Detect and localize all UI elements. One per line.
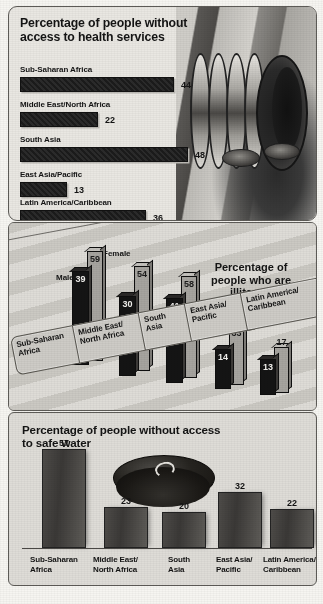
panel-illiteracy: Percentage of people who are illiterate … — [8, 222, 317, 411]
bar-value-water-1: 23 — [121, 496, 131, 508]
legend-female: Female — [103, 249, 131, 258]
drum-face — [272, 67, 302, 151]
bar-label-health-2: South Asia — [20, 135, 205, 145]
bar-group-health-2: South Asia 48 — [20, 135, 205, 162]
photo-blob-1 — [222, 149, 260, 167]
bar-value-water-4: 22 — [287, 498, 297, 510]
page-title-health: Percentage of people without access to h… — [20, 17, 200, 44]
bar-water-3: 32 — [218, 492, 262, 548]
category-plate-line-2b: Asia — [145, 321, 163, 333]
bar-water-0: 57 — [42, 449, 86, 548]
panel-safe-water: Percentage of people without access to s… — [8, 412, 317, 586]
bar-value-illit-m-1: 30 — [122, 297, 132, 309]
bar-health-2 — [20, 147, 188, 162]
bar-label-water-2-line1: South — [168, 555, 190, 564]
water-category-labels: Sub-Saharan Africa Middle East/ North Af… — [17, 553, 317, 581]
coil-illustration — [186, 53, 314, 173]
bar-water-1: 23 — [104, 507, 148, 548]
bar-group-health-3: East Asia/Pacific 13 — [20, 170, 84, 197]
bar-label-health-3: East Asia/Pacific — [20, 170, 84, 180]
bar-value-health-2: 48 — [195, 150, 205, 160]
bar-value-health-4: 36 — [153, 213, 163, 222]
bar-health-3 — [20, 182, 67, 197]
bar-label-water-4-line1: Latin America/ — [263, 555, 316, 564]
bar3d-front: 13 — [260, 359, 276, 395]
bar-water-2: 20 — [162, 512, 206, 548]
bar-water-4: 22 — [270, 509, 314, 548]
bar-label-water-3-line2: Pacific — [216, 565, 241, 574]
bar-value-health-0: 44 — [181, 80, 191, 90]
water-axis-line — [22, 548, 312, 549]
water-bar-plot: 57 23 20 32 22 — [22, 451, 306, 548]
bar-value-water-0: 57 — [59, 438, 69, 450]
bar-label-water-3-line1: East Asia/ — [216, 555, 252, 564]
bar-group-health-1: Middle East/North Africa 22 — [20, 100, 115, 127]
bar-label-water-3: East Asia/ Pacific — [216, 555, 252, 574]
bar-label-health-0: Sub-Saharan Africa — [20, 65, 191, 75]
bar-health-0 — [20, 77, 174, 92]
panel-health-services: Percentage of people without access to h… — [8, 6, 317, 221]
category-plate-line-0a: Sub-Saharan — [16, 331, 65, 349]
bar-group-health-0: Sub-Saharan Africa 44 — [20, 65, 191, 92]
bar-label-water-0-line1: Sub-Saharan — [30, 555, 78, 564]
bar-value-illit-f-0: 59 — [90, 252, 100, 264]
bar-value-health-1: 22 — [105, 115, 115, 125]
bar-label-water-2: South Asia — [168, 555, 190, 574]
bar-group-health-4: Latin America/Caribbean 36 — [20, 198, 163, 221]
page-title-water: Percentage of people without access to s… — [22, 423, 227, 449]
bar-value-health-3: 13 — [74, 185, 84, 195]
bar-label-water-4-line2: Caribbean — [263, 565, 301, 574]
bar-value-illit-f-2: 58 — [184, 277, 194, 289]
bar-label-health-1: Middle East/North Africa — [20, 100, 115, 110]
bar-label-health-4: Latin America/Caribbean — [20, 198, 163, 208]
bar-label-water-1-line1: Middle East/ — [93, 555, 138, 564]
bar-value-illit-f-1: 54 — [137, 267, 147, 279]
bar-health-1 — [20, 112, 98, 127]
bar-value-water-3: 32 — [235, 481, 245, 493]
bar3d-male-4: 13 — [260, 359, 274, 393]
bar-label-water-1-line2: North Africa — [93, 565, 137, 574]
bar-value-water-2: 20 — [179, 501, 189, 513]
bar-health-4 — [20, 210, 146, 221]
bar-label-water-4: Latin America/ Caribbean — [263, 555, 316, 574]
photo-blob-2 — [264, 143, 300, 160]
bar-value-illit-m-0: 39 — [75, 272, 85, 284]
bar-label-water-0-line2: Africa — [30, 565, 52, 574]
infographic-page: Percentage of people without access to h… — [0, 0, 323, 604]
bar-label-water-0: Sub-Saharan Africa — [30, 555, 78, 574]
bar-label-water-2-line2: Asia — [168, 565, 184, 574]
bar-label-water-1: Middle East/ North Africa — [93, 555, 138, 574]
